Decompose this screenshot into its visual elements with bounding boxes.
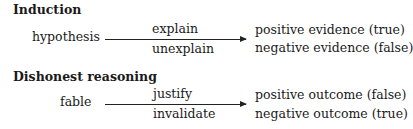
- arrow-right-icon: [105, 104, 246, 105]
- arrow-label-below: invalidate: [153, 106, 215, 121]
- target-top: positive evidence (true): [255, 22, 405, 37]
- arrow-right-icon: [105, 39, 246, 40]
- section-title: Induction: [13, 2, 81, 17]
- source-node: hypothesis: [32, 29, 100, 44]
- arrow-label-below: unexplain: [152, 41, 214, 56]
- section-title: Dishonest reasoning: [13, 69, 157, 84]
- source-node: fable: [60, 94, 91, 109]
- arrow-label-above: explain: [152, 21, 198, 36]
- target-bottom: negative evidence (false): [255, 40, 413, 55]
- arrow-label-above: justify: [153, 86, 192, 101]
- target-bottom: negative outcome (true): [255, 106, 408, 121]
- target-top: positive outcome (false): [255, 87, 406, 102]
